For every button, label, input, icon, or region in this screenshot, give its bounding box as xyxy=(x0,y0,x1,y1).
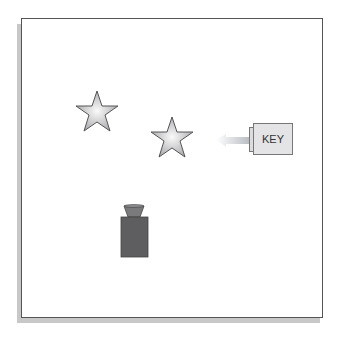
weight-icon xyxy=(121,205,148,258)
key-box: KEY xyxy=(253,123,293,155)
arrow-left-icon xyxy=(216,134,250,147)
diagram-canvas xyxy=(0,0,340,337)
key-label: KEY xyxy=(262,133,284,145)
star-icon xyxy=(76,91,118,131)
star-icon xyxy=(151,117,193,157)
